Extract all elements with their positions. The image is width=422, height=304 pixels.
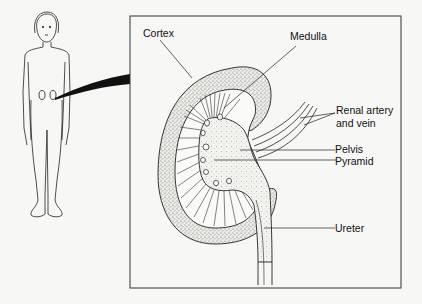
pointer-wedge — [55, 74, 130, 100]
label-pelvis: Pelvis — [335, 143, 363, 155]
human-figure — [23, 12, 70, 217]
label-renal-vein: and vein — [336, 117, 376, 129]
label-ureter: Ureter — [335, 222, 364, 234]
label-renal-artery: Renal artery — [336, 104, 393, 116]
label-medulla: Medulla — [290, 30, 327, 42]
label-pyramid: Pyramid — [335, 155, 374, 167]
label-cortex: Cortex — [143, 27, 174, 39]
